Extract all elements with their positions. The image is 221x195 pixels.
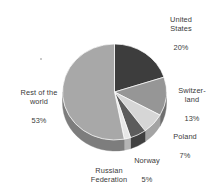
slice-label-name-switzerland: Switzer- land: [166, 86, 218, 104]
pie-chart-figure: United States 20% Switzer- land 13% Pola…: [0, 0, 221, 195]
slice-label-value-rest-of-the-world: 53%: [6, 116, 72, 125]
slice-label-name-rest-of-the-world: Rest of the world: [6, 88, 72, 106]
pie-top-slices: [63, 44, 167, 140]
slice-label-russian-federation: Russian Federation 2%: [78, 157, 140, 195]
stray-speck: [40, 58, 42, 60]
slice-label-rest-of-the-world: Rest of the world 53%: [6, 79, 72, 134]
slice-label-name-united-states: United States: [153, 15, 209, 33]
slice-label-value-russian-federation: 2%: [78, 194, 140, 195]
slice-label-united-states: United States 20%: [153, 6, 209, 61]
slice-label-name-poland: Poland: [160, 132, 210, 141]
slice-label-value-switzerland: 13%: [166, 114, 218, 123]
slice-label-name-russian-federation: Russian Federation: [78, 166, 140, 184]
slice-label-value-united-states: 20%: [153, 43, 209, 52]
